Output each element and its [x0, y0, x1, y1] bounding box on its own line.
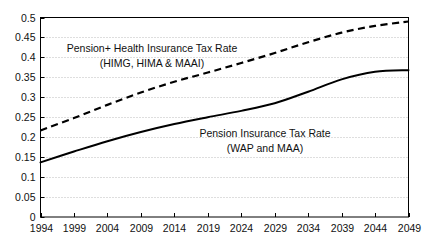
x-tick-label: 2024 [230, 222, 254, 234]
y-tick-label: 0.05 [15, 191, 36, 203]
x-tick-label: 2029 [264, 222, 288, 234]
x-tick-label: 2009 [130, 222, 154, 234]
line-chart: 00.050.10.150.20.250.30.350.40.450.5 199… [0, 0, 433, 252]
x-tick-label: 2034 [297, 222, 321, 234]
x-tick-label: 1999 [63, 222, 87, 234]
x-tick-label: 2039 [331, 222, 355, 234]
x-tick-label: 2049 [398, 222, 422, 234]
y-tick-label: 0.35 [15, 71, 36, 83]
annotation-lower-line2: (WAP and MAA) [227, 142, 303, 154]
annotation-upper-line2: (HIMG, HIMA & MAAI) [100, 57, 204, 69]
x-tick-label: 1994 [30, 222, 54, 234]
y-tick-label: 0.25 [15, 111, 36, 123]
annotation-lower-line1: Pension Insurance Tax Rate [199, 127, 330, 139]
x-tick-label: 2004 [96, 222, 120, 234]
x-tick-label: 2044 [364, 222, 388, 234]
x-tick-label: 2019 [197, 222, 221, 234]
y-tick-label: 0.2 [21, 131, 36, 143]
y-tick-label: 0.45 [15, 31, 36, 43]
y-tick-label: 0.3 [21, 91, 36, 103]
annotation-upper-line1: Pension+ Health Insurance Tax Rate [67, 42, 238, 54]
x-tick-label: 2014 [163, 222, 187, 234]
y-tick-label: 0.15 [15, 151, 36, 163]
y-tick-label: 0.1 [21, 171, 36, 183]
y-tick-label: 0.5 [21, 12, 36, 24]
y-tick-label: 0.4 [21, 51, 36, 63]
chart-figure: 00.050.10.150.20.250.30.350.40.450.5 199… [0, 0, 433, 252]
